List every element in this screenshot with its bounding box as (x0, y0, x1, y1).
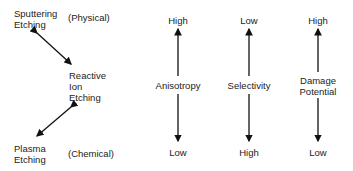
label-line: Damage (300, 75, 337, 86)
plasma-etching-label: Plasma Etching (14, 143, 46, 165)
label-line: Ion (69, 81, 106, 92)
label-line: Etching (14, 19, 57, 30)
label-line: Etching (69, 92, 106, 103)
reactive-ion-etching-label: Reactive Ion Etching (69, 70, 106, 103)
anisotropy-bottom-label: Low (169, 147, 186, 158)
label-line: Etching (14, 154, 46, 165)
damage-potential-label: Damage Potential (300, 75, 337, 97)
double-arrow-sputtering-rie (37, 33, 71, 64)
label-line: Plasma (14, 143, 46, 154)
damage-top-label: High (308, 15, 328, 26)
damage-bottom-label: Low (309, 147, 326, 158)
etching-comparison-diagram: Sputtering Etching (Physical) Reactive I… (0, 0, 353, 171)
physical-label: (Physical) (68, 12, 110, 23)
double-arrow-rie-plasma (37, 107, 71, 136)
sputtering-etching-label: Sputtering Etching (14, 8, 57, 30)
anisotropy-label: Anisotropy (156, 80, 201, 91)
label-line: Potential (300, 86, 337, 97)
label-line: Sputtering (14, 8, 57, 19)
selectivity-top-label: Low (240, 15, 257, 26)
label-line: Reactive (69, 70, 106, 81)
selectivity-label: Selectivity (228, 80, 271, 91)
anisotropy-top-label: High (168, 15, 188, 26)
chemical-label: (Chemical) (68, 148, 114, 159)
selectivity-bottom-label: High (239, 147, 259, 158)
